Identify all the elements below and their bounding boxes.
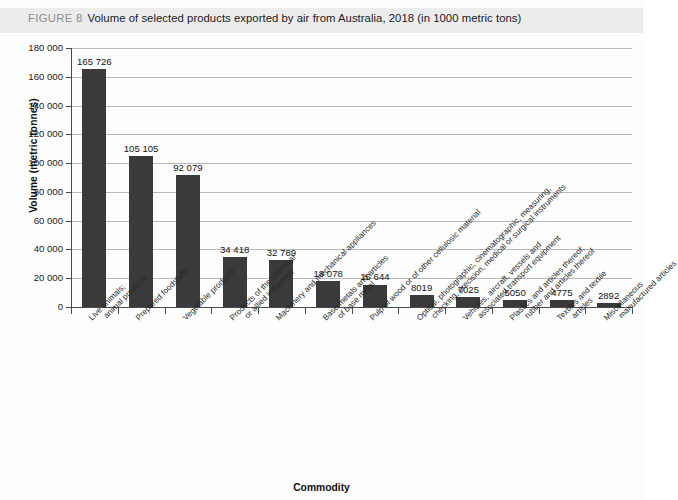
x-axis-tick bbox=[398, 307, 399, 314]
bar[interactable] bbox=[82, 69, 106, 307]
y-axis-tick bbox=[66, 163, 71, 164]
y-axis-tick-label: 40 000 bbox=[34, 243, 63, 254]
y-axis-tick-label: 180 000 bbox=[28, 42, 63, 53]
y-axis-tick bbox=[66, 134, 71, 135]
x-axis-tick bbox=[258, 307, 259, 314]
y-axis-line bbox=[71, 48, 72, 308]
x-axis-tick bbox=[352, 307, 353, 314]
bar[interactable] bbox=[176, 175, 200, 307]
x-axis-tick bbox=[211, 307, 212, 314]
y-axis-tick bbox=[66, 77, 71, 78]
bar-value-label: 32 789 bbox=[251, 247, 311, 258]
bar-value-label: 15 644 bbox=[345, 271, 405, 282]
x-axis-tick bbox=[71, 307, 72, 314]
x-axis-tick bbox=[445, 307, 446, 314]
gridline bbox=[71, 106, 632, 107]
gridline bbox=[71, 77, 632, 78]
y-axis-tick bbox=[66, 278, 71, 279]
gridline bbox=[71, 221, 632, 222]
gridline bbox=[71, 134, 632, 135]
bar-value-label: 165 726 bbox=[64, 56, 124, 67]
gridline bbox=[71, 48, 632, 49]
y-axis-tick bbox=[66, 48, 71, 49]
x-axis-tick bbox=[632, 307, 633, 314]
x-axis-tick bbox=[118, 307, 119, 314]
x-axis-tick bbox=[539, 307, 540, 314]
y-axis-tick bbox=[66, 192, 71, 193]
x-axis-tick bbox=[165, 307, 166, 314]
y-axis-tick-label: 20 000 bbox=[34, 272, 63, 283]
y-axis-tick bbox=[66, 221, 71, 222]
y-axis-tick-label: 0 bbox=[58, 301, 63, 312]
y-axis-title: Volume (metric tonnes) bbox=[28, 76, 39, 236]
x-axis-tick bbox=[585, 307, 586, 314]
x-axis-tick bbox=[305, 307, 306, 314]
y-axis-tick bbox=[66, 106, 71, 107]
bar-value-label: 92 079 bbox=[158, 162, 218, 173]
bar-value-label: 105 105 bbox=[111, 143, 171, 154]
x-axis-tick bbox=[492, 307, 493, 314]
y-axis-tick bbox=[66, 249, 71, 250]
gridline bbox=[71, 163, 632, 164]
x-axis-title: Commodity bbox=[0, 482, 643, 493]
